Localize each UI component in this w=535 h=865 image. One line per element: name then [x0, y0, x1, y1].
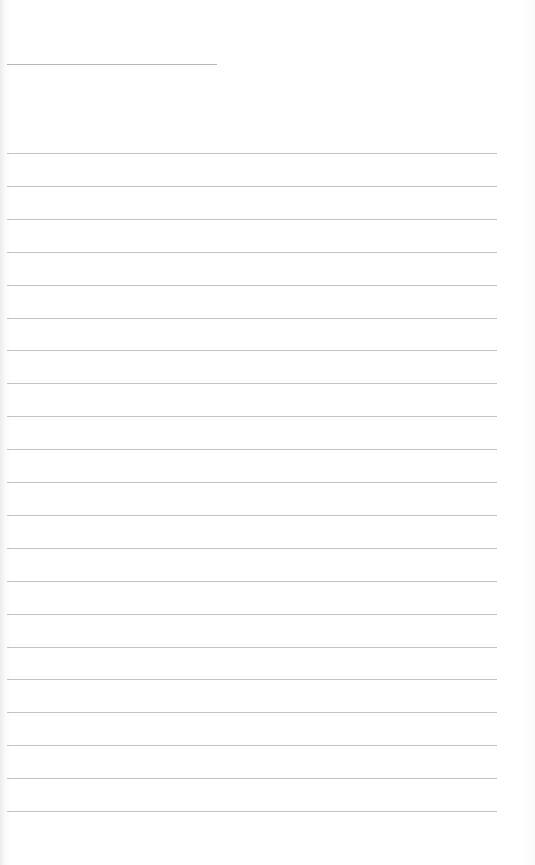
ruled-line: [7, 350, 497, 351]
ruled-line: [7, 778, 497, 779]
ruled-line: [7, 614, 497, 615]
ruled-line: [7, 679, 497, 680]
ruled-line: [7, 745, 497, 746]
ruled-line: [7, 318, 497, 319]
ruled-line: [7, 416, 497, 417]
ruled-line: [7, 712, 497, 713]
ruled-line: [7, 153, 497, 154]
ruled-line: [7, 219, 497, 220]
ruled-line: [7, 252, 497, 253]
lined-paper-page: [0, 0, 535, 865]
ruled-line: [7, 581, 497, 582]
ruled-line: [7, 449, 497, 450]
ruled-line: [7, 186, 497, 187]
ruled-line: [7, 482, 497, 483]
ruled-line: [7, 383, 497, 384]
title-line: [7, 64, 217, 65]
ruled-line: [7, 811, 497, 812]
ruled-line: [7, 515, 497, 516]
ruled-line: [7, 548, 497, 549]
ruled-line: [7, 285, 497, 286]
ruled-line: [7, 647, 497, 648]
